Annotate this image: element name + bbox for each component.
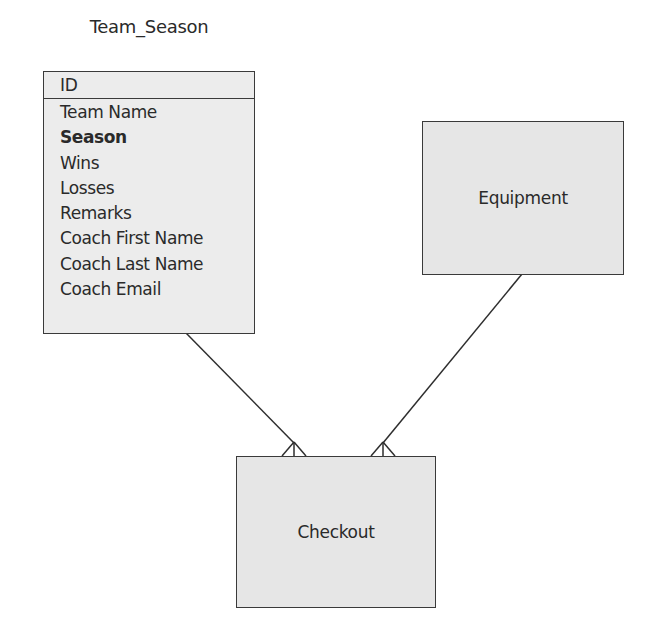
- entity-label-equipment: Equipment: [423, 188, 623, 208]
- primary-key-field: ID: [44, 72, 254, 99]
- relationship-equipment-checkout: [371, 274, 522, 456]
- attribute-remarks: Remarks: [60, 201, 254, 226]
- entity-title-team-season: Team_Season: [43, 16, 255, 37]
- attribute-wins: Wins: [60, 151, 254, 176]
- entity-label-checkout: Checkout: [237, 522, 435, 542]
- entity-equipment[interactable]: Equipment: [422, 121, 624, 275]
- attribute-list: Team Name Season Wins Losses Remarks Coa…: [44, 99, 254, 302]
- attribute-coach-email: Coach Email: [60, 277, 254, 302]
- attribute-season: Season: [60, 125, 254, 150]
- attribute-coach-first-name: Coach First Name: [60, 226, 254, 251]
- attribute-team-name: Team Name: [60, 100, 254, 125]
- attribute-losses: Losses: [60, 176, 254, 201]
- relationship-team-season-checkout: [186, 333, 306, 456]
- entity-team-season[interactable]: ID Team Name Season Wins Losses Remarks …: [43, 71, 255, 334]
- attribute-coach-last-name: Coach Last Name: [60, 252, 254, 277]
- entity-checkout[interactable]: Checkout: [236, 456, 436, 608]
- crows-foot-many-icon: [282, 442, 306, 456]
- crows-foot-many-icon: [371, 442, 395, 456]
